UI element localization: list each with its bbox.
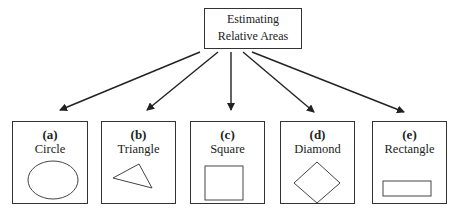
arrow-to-rectangle [252, 52, 404, 112]
root-title-line1: Estimating [205, 11, 301, 28]
arrow-to-circle [60, 52, 200, 110]
arrow-to-diamond [243, 52, 314, 112]
card-rectangle: (e) Rectangle [372, 121, 447, 204]
card-square: (c) Square [190, 121, 265, 204]
card-circle: (a) Circle [12, 121, 88, 204]
root-node: Estimating Relative Areas [204, 8, 302, 49]
card-triangle: (b) Triangle [101, 121, 176, 204]
triangle-icon [102, 122, 177, 205]
rectangle-icon [373, 122, 448, 205]
arrow-to-triangle [147, 52, 218, 110]
root-title-line2: Relative Areas [205, 28, 301, 45]
card-diamond: (d) Diamond [280, 121, 355, 204]
circle-icon [13, 122, 89, 205]
diamond-icon [281, 122, 356, 205]
square-icon [191, 122, 266, 205]
